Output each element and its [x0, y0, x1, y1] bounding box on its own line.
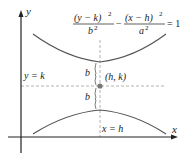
lower-b-brace: [95, 88, 96, 109]
upper-branch: [33, 34, 166, 62]
x-axis-label: x: [171, 123, 177, 135]
x-axis-arrow-icon: [171, 135, 178, 140]
upper-b-brace: [95, 63, 96, 85]
term1-denominator-exp: 2: [94, 24, 98, 32]
hyperbola-diagram: y x y = k x = h (h, k) b b (y − k) 2 b 2…: [0, 0, 189, 160]
lower-b-label: b: [85, 91, 90, 102]
center-point: [97, 83, 102, 88]
upper-b-label: b: [85, 67, 90, 78]
hyperbola-equation: (y − k) 2 b 2 − (x − h) 2 a 2 = 1: [73, 10, 180, 36]
y-axis-label: y: [25, 5, 31, 17]
y-equals-k-label: y = k: [23, 70, 45, 81]
equals-one: = 1: [167, 18, 180, 29]
x-equals-h-label: x = h: [101, 123, 123, 134]
term2-denominator: a: [139, 25, 144, 36]
term1-numerator-exp: 2: [108, 10, 112, 18]
term2-denominator-exp: 2: [145, 24, 149, 32]
term2-numerator-exp: 2: [159, 10, 163, 18]
lower-branch: [33, 110, 166, 134]
center-label: (h, k): [105, 71, 127, 83]
term1-numerator: (y − k): [74, 12, 102, 24]
term2-numerator: (x − h): [125, 12, 154, 24]
minus-sign: −: [116, 18, 122, 29]
term1-denominator: b: [88, 25, 93, 36]
y-axis-arrow-icon: [19, 10, 24, 17]
